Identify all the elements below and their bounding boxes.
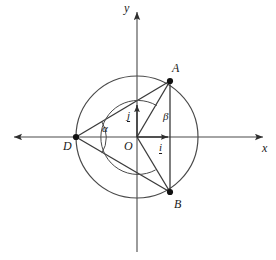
point-dot-B [167, 189, 173, 195]
x-axis-label: x [262, 142, 267, 154]
diagram-canvas [0, 0, 276, 260]
axis-group [14, 12, 263, 252]
vector-label-i: i [159, 142, 162, 153]
point-label-A: A [172, 62, 179, 74]
segment-DB [76, 137, 170, 192]
point-dot-A [167, 78, 173, 84]
segment-OB [137, 137, 170, 192]
origin-label: O [124, 140, 133, 152]
segment-DA [76, 81, 170, 137]
point-label-D: D [63, 140, 72, 152]
segment-OA [137, 81, 170, 137]
angle-label-beta: β [163, 111, 168, 122]
point-dot-D [73, 134, 79, 140]
angle-label-alpha: α [102, 123, 108, 134]
geometry-figure: x y O A B D α β i j [0, 0, 276, 260]
y-axis-label: y [124, 2, 129, 14]
vector-label-j: j [127, 110, 130, 121]
point-label-B: B [174, 198, 181, 210]
